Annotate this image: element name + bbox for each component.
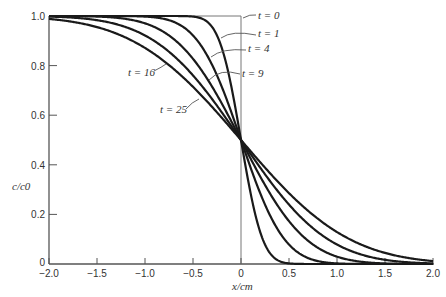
- diffusion-profile-chart: −2.0−1.5−1.0−0.500.51.01.52.0 00.20.40.6…: [0, 0, 446, 297]
- x-tick-label: −0.5: [183, 268, 203, 279]
- curve-label: t = 0: [258, 9, 280, 21]
- arrow-icon: [186, 99, 199, 109]
- arrow-icon: [221, 33, 256, 38]
- x-axis-label: x/cm: [231, 280, 253, 292]
- curve-label: t = 16: [128, 66, 155, 78]
- x-tick-label: −1.5: [87, 268, 107, 279]
- y-tick-label: 0.2: [31, 209, 45, 220]
- arrow-icon: [209, 72, 240, 80]
- y-tick-label: 0: [39, 257, 45, 268]
- x-tick-label: 2.0: [426, 268, 440, 279]
- x-tick-label: 1.5: [378, 268, 392, 279]
- curve-label: t = 9: [242, 67, 264, 79]
- y-tick-label: 0.6: [31, 110, 45, 121]
- y-tick-label: 1.0: [31, 11, 45, 22]
- x-tick-label: 0.5: [282, 268, 296, 279]
- arrow-icon: [243, 15, 256, 18]
- curve-label: t = 25: [160, 103, 187, 115]
- x-tick-label: −1.0: [135, 268, 155, 279]
- x-tick-label: −2.0: [39, 268, 59, 279]
- y-tick-label: 0.8: [31, 61, 45, 72]
- arrow-icon: [154, 64, 166, 71]
- y-axis-label: c/c0: [12, 180, 31, 192]
- x-ticks: −2.0−1.5−1.0−0.500.51.01.52.0: [39, 258, 440, 279]
- y-ticks: 00.20.40.60.81.0: [31, 11, 57, 268]
- curve-label: t = 4: [248, 42, 270, 54]
- x-tick-label: 0: [238, 268, 244, 279]
- x-tick-label: 1.0: [330, 268, 344, 279]
- curve-label: t = 1: [258, 27, 279, 39]
- y-tick-label: 0.4: [31, 160, 45, 171]
